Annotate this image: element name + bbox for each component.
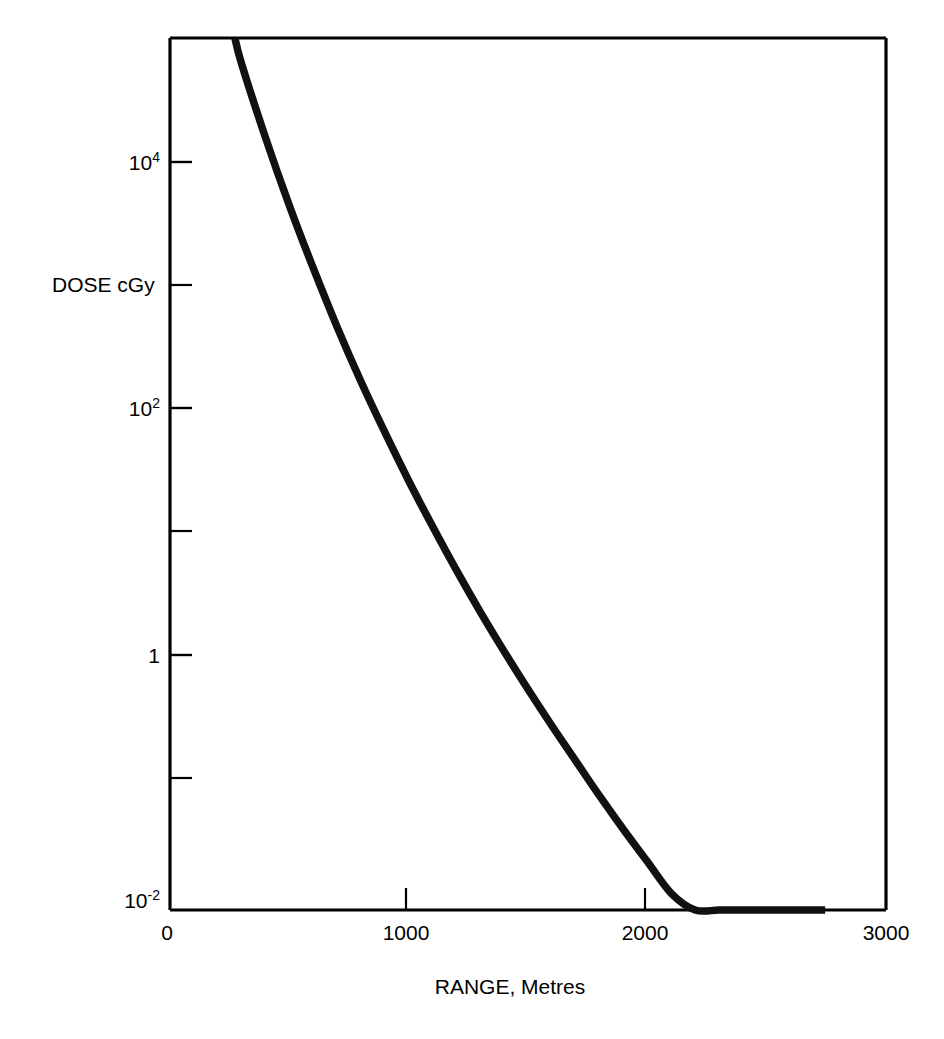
y-axis-tick-labels: 104 102 1 10-2: [124, 149, 160, 912]
x-axis-title: RANGE, Metres: [435, 975, 586, 998]
x-tick-label-2000: 2000: [622, 921, 669, 944]
x-axis-ticks: [406, 888, 645, 910]
y-axis-ticks: [170, 162, 192, 778]
y-tick-label-1e4: 104: [129, 149, 160, 174]
x-tick-label-0: 0: [161, 921, 173, 944]
y-axis-title: DOSE cGy: [52, 273, 155, 296]
chart-figure: 104 102 1 10-2 0 1000 2000 3000 DOSE cGy…: [0, 0, 944, 1039]
y-tick-label-1e2: 102: [129, 395, 160, 420]
dose-curve: [235, 38, 825, 911]
x-tick-label-3000: 3000: [863, 921, 910, 944]
y-tick-label-1e0: 1: [148, 644, 160, 667]
x-axis-tick-labels: 0 1000 2000 3000: [161, 921, 909, 944]
dose-vs-range-plot: 104 102 1 10-2 0 1000 2000 3000 DOSE cGy…: [0, 0, 944, 1039]
y-tick-label-1e-2: 10-2: [124, 887, 160, 912]
x-tick-label-1000: 1000: [383, 921, 430, 944]
